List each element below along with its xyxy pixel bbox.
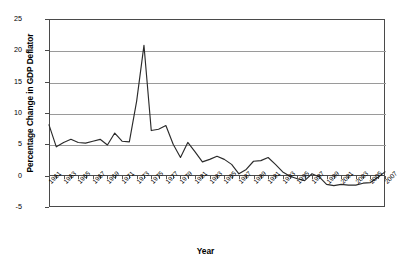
gridline-20 xyxy=(50,51,386,52)
y-tick-label-0: 0 xyxy=(0,172,22,179)
y-tick-label-5: 5 xyxy=(0,140,22,147)
y-tick-label-10: 10 xyxy=(0,109,22,116)
y-axis-label: Percentage Change in GDP Deflator xyxy=(25,13,35,193)
y-tick-label-25: 25 xyxy=(0,15,22,22)
x-axis-tick-labels: 1961196319651967196919711973197519771979… xyxy=(49,180,385,220)
y-tick-label--5: -5 xyxy=(0,203,22,210)
x-tick-label-2007: 2007 xyxy=(383,170,398,185)
plot-area-upper xyxy=(49,19,385,176)
gridline-5 xyxy=(50,145,386,146)
y-tick-label-15: 15 xyxy=(0,78,22,85)
y-tick-label-20: 20 xyxy=(0,46,22,53)
chart-container: Percentage Change in GDP Deflator 252015… xyxy=(0,0,411,269)
gridline-15 xyxy=(50,83,386,84)
x-axis-label: Year xyxy=(0,246,411,256)
gridline-10 xyxy=(50,114,386,115)
